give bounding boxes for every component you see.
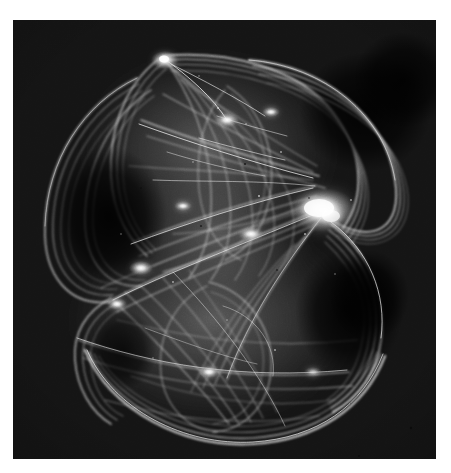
attractor-canvas [13, 20, 436, 459]
attractor-plate [13, 20, 436, 459]
figure-page [0, 0, 451, 473]
